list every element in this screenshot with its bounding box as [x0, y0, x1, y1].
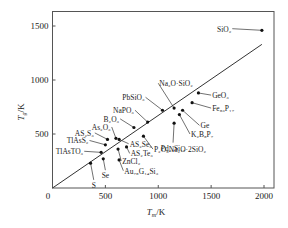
point-marker	[173, 122, 176, 125]
point-marker	[100, 151, 103, 154]
point-label: Ge	[200, 121, 209, 130]
point-label: Se	[102, 171, 110, 180]
x-tick-label: 2000	[255, 191, 274, 201]
data-point: Ge	[181, 109, 210, 131]
point-marker	[161, 109, 164, 112]
y-tick-label: 500	[35, 129, 49, 139]
point-label: PbSiO₃	[122, 93, 145, 102]
leader-line	[90, 140, 106, 144]
point-label: Na₂O·SiO₂	[159, 79, 193, 88]
point-label: K₂B₈P₇	[191, 130, 214, 139]
point-marker	[125, 145, 128, 148]
point-marker	[181, 109, 184, 112]
data-point: As₂O₃	[92, 123, 118, 140]
leader-line	[146, 97, 163, 110]
chart-svg: 50010001500200050010001500 SiO₂Na₂O·SiO₂…	[0, 0, 288, 228]
point-marker	[89, 162, 92, 165]
point-label: NaPO₃	[113, 106, 134, 115]
point-label: SiO₂	[217, 25, 232, 34]
point-marker	[142, 135, 145, 138]
point-label: GeO₃	[212, 91, 229, 100]
x-tick-label: 1500	[202, 191, 221, 201]
scatter-chart: 50010001500200050010001500 SiO₂Na₂O·SiO₂…	[0, 0, 288, 228]
point-label: As₂O₃	[92, 123, 111, 132]
data-point: Na₂O·SiO₂	[158, 79, 193, 109]
point-label: TlAsS₂	[67, 136, 89, 145]
point-marker	[118, 138, 121, 141]
leader-line	[179, 115, 190, 134]
point-label: P₂O₅Na₂O·2SiO₂	[154, 145, 207, 154]
data-point: TlAsTO₃	[56, 147, 103, 156]
data-point: GeO₃	[197, 91, 229, 100]
point-marker	[132, 126, 135, 129]
leader-line	[95, 133, 108, 139]
data-point: S	[89, 162, 96, 190]
leader-line	[120, 119, 134, 128]
leader-line	[135, 110, 148, 122]
y-axis-label: Tg/K	[16, 103, 27, 121]
x-tick-label: 500	[99, 191, 113, 201]
point-label: Au₇₈G₁₄Si₃	[124, 167, 158, 176]
data-point: TlAsS₂	[67, 136, 107, 146]
point-marker	[260, 29, 263, 32]
leader-line	[103, 159, 105, 170]
point-label: Fe₈₃P₁₇	[212, 104, 235, 113]
point-marker	[173, 106, 176, 109]
leader-line	[84, 151, 101, 152]
x-axis-label: Tm/K	[147, 207, 166, 218]
y-tick-label: 1500	[31, 21, 50, 31]
point-marker	[106, 138, 109, 141]
point-label: S	[92, 181, 96, 190]
point-marker	[116, 148, 119, 151]
origin-label: 0	[46, 191, 51, 201]
leader-line	[192, 103, 211, 108]
leader-line	[198, 93, 211, 95]
data-points: SiO₂Na₂O·SiO₂PbSiO₃GeO₃NaPO₃Fe₈₃P₁₇B₂O₃G…	[56, 25, 264, 190]
data-point: Fe₈₃P₁₇	[190, 101, 234, 113]
point-label: TlAsTO₃	[56, 147, 84, 156]
point-marker	[114, 137, 117, 140]
leader-line	[91, 163, 94, 180]
point-label: ZnCl₂	[122, 157, 140, 166]
point-marker	[118, 158, 121, 161]
data-point: SiO₂	[217, 25, 264, 34]
x-tick-label: 1000	[149, 191, 168, 201]
y-tick-label: 1000	[31, 75, 50, 85]
point-marker	[178, 113, 181, 116]
leader-line	[183, 110, 200, 125]
point-marker	[190, 101, 193, 104]
point-marker	[197, 91, 200, 94]
plot-frame	[53, 12, 275, 189]
leader-line	[112, 127, 116, 138]
point-marker	[102, 157, 105, 160]
point-marker	[104, 143, 107, 146]
point-marker	[146, 121, 149, 124]
leader-line	[232, 29, 262, 31]
leader-line	[173, 123, 174, 142]
data-point: Se	[102, 157, 110, 180]
